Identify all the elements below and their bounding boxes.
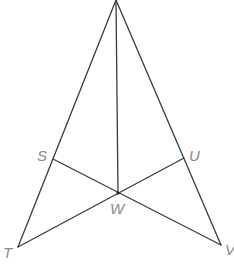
label-v: V: [225, 241, 234, 258]
label-u: U: [189, 147, 200, 164]
segment-av: [116, 0, 221, 245]
segment-sv: [53, 159, 221, 245]
geometry-diagram: S U W T V: [0, 0, 234, 270]
segment-aw: [116, 0, 118, 193]
label-s: S: [37, 147, 47, 164]
label-t: T: [3, 244, 14, 261]
label-w: W: [110, 200, 126, 217]
labels: S U W T V: [3, 147, 234, 261]
segment-at: [18, 0, 116, 247]
point-w-marker: [116, 191, 119, 194]
segment-tu: [18, 158, 184, 247]
